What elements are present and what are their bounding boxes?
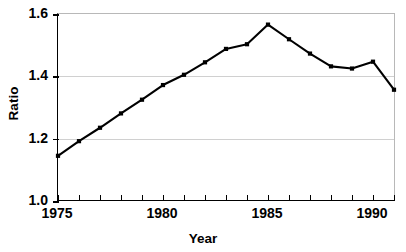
data-point-marker (224, 47, 228, 51)
data-point-marker (308, 51, 312, 55)
data-point-marker (371, 60, 375, 64)
data-point-marker (287, 37, 291, 41)
data-point-marker (119, 111, 123, 115)
data-point-marker (140, 98, 144, 102)
y-axis-tick-label: 1.2 (4, 131, 48, 145)
y-axis-tick-label: 1.6 (4, 6, 48, 20)
plot-area (57, 13, 395, 201)
data-point-marker (161, 83, 165, 87)
data-point-marker (329, 64, 333, 68)
data-point-marker (392, 88, 396, 92)
x-axis-tick-label: 1990 (342, 206, 402, 220)
data-point-marker (266, 23, 270, 27)
line-chart-figure: Ratio Year 1.01.21.41.6 1975198019851990 (0, 0, 406, 252)
data-point-marker (77, 139, 81, 143)
y-axis-tick-label: 1.4 (4, 68, 48, 82)
x-axis-tick-label: 1975 (27, 206, 87, 220)
data-point-marker (245, 42, 249, 46)
x-axis-title: Year (0, 231, 406, 246)
data-point-marker (182, 73, 186, 77)
x-axis-tick-label: 1985 (237, 206, 297, 220)
data-series-ratio (58, 14, 396, 202)
data-point-marker (203, 60, 207, 64)
x-axis-tick-label: 1980 (132, 206, 192, 220)
series-line (58, 25, 394, 156)
data-point-marker (98, 126, 102, 130)
data-point-marker (350, 66, 354, 70)
data-point-marker (56, 154, 60, 158)
